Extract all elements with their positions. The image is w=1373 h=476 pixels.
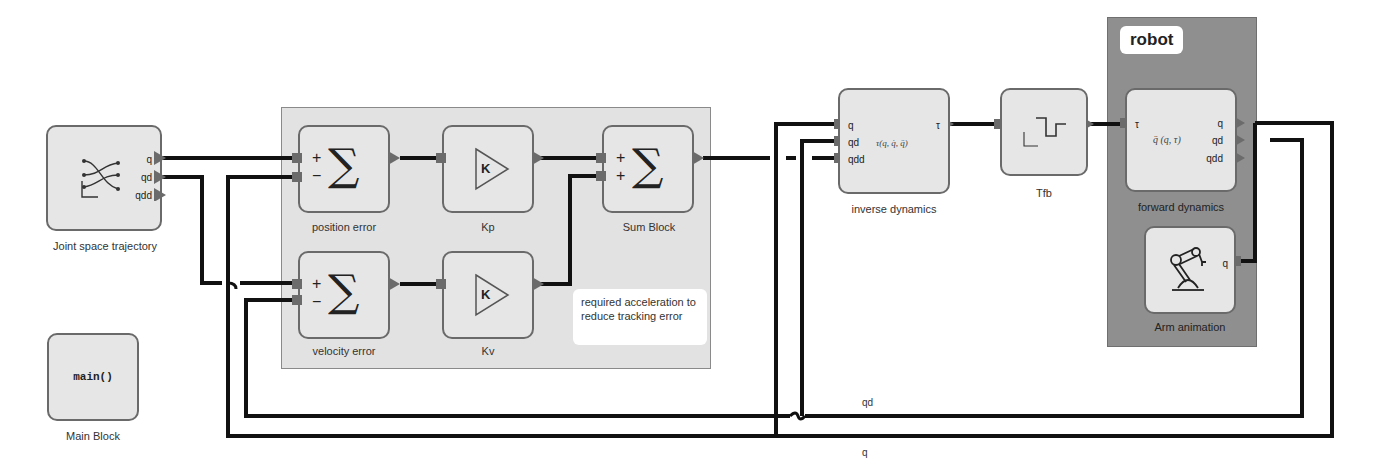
step-signal-icon	[1020, 114, 1074, 156]
port-label-q: q	[848, 120, 854, 131]
tfb-block[interactable]	[1000, 88, 1088, 176]
tfb-label: Tfb	[1000, 187, 1088, 199]
inverse-dynamics-block[interactable]: q qd qdd τ τ(q, q̇, q̈)	[838, 88, 950, 194]
port-label-tau: τ	[1135, 119, 1139, 130]
inverse-dynamics-formula: τ(q, q̇, q̈)	[876, 138, 908, 148]
port-label-q: q	[1217, 118, 1223, 129]
inverse-dynamics-label: inverse dynamics	[830, 203, 958, 215]
port-label-tau: τ	[936, 120, 940, 131]
forward-dynamics-formula: q̈ (q, τ)	[1153, 134, 1181, 145]
arm-animation-label: Arm animation	[1140, 321, 1240, 333]
port-label-qdd: qdd	[848, 154, 865, 165]
arm-animation-block[interactable]: q	[1144, 226, 1236, 314]
port-label-qd: qd	[1212, 135, 1223, 146]
port-label-qd: qd	[848, 137, 859, 148]
robot-arm-icon	[1166, 244, 1216, 294]
port-label-q: q	[1222, 258, 1228, 269]
port-label-qdd: qdd	[1206, 153, 1223, 164]
forward-dynamics-block[interactable]: τ q qd qdd q̈ (q, τ)	[1125, 88, 1237, 192]
forward-dynamics-label: forward dynamics	[1120, 201, 1242, 213]
